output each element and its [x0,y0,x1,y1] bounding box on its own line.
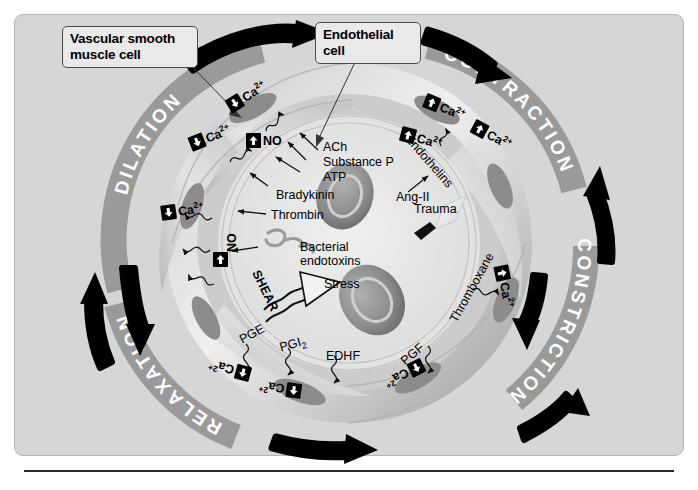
ring-label-dilation: DILATION [110,88,186,197]
figure-container: DILATION CONTRACTION CONSTRICTION RELAXA… [0,0,698,490]
diagram-canvas: DILATION CONTRACTION CONSTRICTION RELAXA… [0,0,698,490]
arrow-bottom [272,437,352,457]
badge-no-lower-label: NO [225,233,239,252]
callout-vsmc-line1: Vascular smooth [70,31,190,47]
arrow-head-bottom [344,434,378,464]
badge-no-lower: NO [213,252,249,267]
label-bradykinin: Bradykinin [276,188,334,203]
label-ach: ACh [323,140,347,155]
label-edhf: EDHF [326,349,360,364]
callout-vascular-smooth-muscle-cell: Vascular smooth muscle cell [62,26,198,68]
arrow-up-icon [494,264,512,282]
badge-no-upper-label: NO [263,134,282,148]
arrow-down-icon [285,382,302,399]
label-stress: Stress [324,277,359,292]
arrow-head-right-inner [512,318,540,350]
arrow-down-icon [160,203,177,220]
label-trauma: Trauma [414,202,457,217]
label-endotoxins: endotoxins [300,254,360,269]
badge-ca-bottom-left-2-label: Ca2+ [258,378,286,398]
callout-vsmc-line2: muscle cell [70,47,190,63]
arrow-up-icon [246,133,261,148]
label-bacterial: Bacterial [300,240,349,255]
callout-endothelial-cell: Endothelial cell [315,22,421,64]
arrow-up-icon [213,252,228,267]
arrow-head-right [583,166,610,200]
arrow-up-icon [399,126,417,144]
label-substance-p: Substance P [323,155,394,170]
badge-no-upper: NO [246,133,282,148]
callout-endothelial-line2: cell [323,43,413,59]
callout-endothelial-line1: Endothelial [323,27,413,43]
label-thrombin: Thrombin [271,208,324,223]
label-atp: ATP [323,170,346,185]
